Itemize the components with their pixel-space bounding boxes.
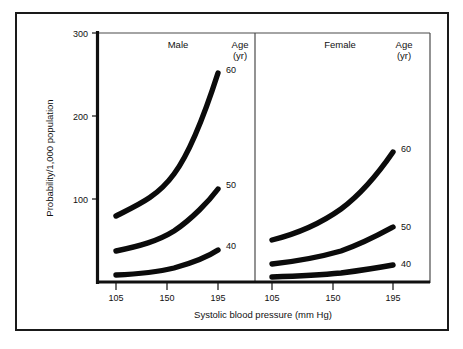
series-label-male-60: 60 (226, 65, 236, 75)
curve-male-age-50 (116, 189, 218, 251)
x-tick-label-male-195: 195 (210, 293, 225, 303)
x-axis-title: Systolic blood pressure (mm Hg) (194, 309, 332, 320)
figure-root: 300 200 100 Probability/1,000 population… (0, 0, 463, 349)
panel-title-male: Male (168, 39, 189, 50)
panel-title-female: Female (324, 39, 356, 50)
series-label-male-40: 40 (226, 241, 236, 251)
curve-male-age-40 (116, 250, 218, 275)
y-tick-label-100: 100 (73, 195, 88, 205)
curve-female-age-60 (272, 152, 393, 240)
series-label-male-50: 50 (226, 180, 236, 190)
series-label-female-50: 50 (401, 222, 411, 232)
curve-male-age-60 (116, 73, 218, 216)
series-label-female-40: 40 (401, 259, 411, 269)
y-tick-label-300: 300 (73, 29, 88, 39)
x-tick-label-female-195: 195 (385, 293, 400, 303)
y-axis-title: Probability/1,000 population (44, 99, 55, 216)
x-tick-label-male-150: 150 (159, 293, 174, 303)
x-tick-label-female-105: 105 (264, 293, 279, 303)
curve-female-age-40 (272, 265, 393, 277)
chart-canvas: 300 200 100 Probability/1,000 population… (0, 0, 463, 349)
y-tick-label-200: 200 (73, 112, 88, 122)
legend-unit-female-yr: (yr) (397, 50, 411, 61)
x-tick-label-male-105: 105 (108, 293, 123, 303)
series-label-female-60: 60 (401, 144, 411, 154)
legend-title-male-age: Age (232, 39, 249, 50)
x-tick-label-female-150: 150 (325, 293, 340, 303)
legend-unit-male-yr: (yr) (233, 50, 247, 61)
legend-title-female-age: Age (396, 39, 413, 50)
